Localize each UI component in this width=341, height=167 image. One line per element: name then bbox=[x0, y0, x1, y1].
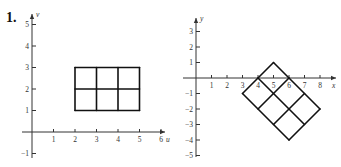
y-tick-label: 1 bbox=[189, 58, 193, 67]
y-tick-label: −5 bbox=[185, 151, 193, 160]
xy-transformed-region bbox=[243, 63, 321, 141]
y-tick-label: −3 bbox=[185, 120, 193, 129]
uv-grid-region bbox=[75, 68, 140, 111]
xy-plane-graph: 12345678−5−4−3−2−1123 x y bbox=[183, 14, 336, 160]
x-tick-label: 6 bbox=[287, 81, 291, 90]
y-tick-label: 5 bbox=[25, 20, 29, 29]
y-tick-label: 4 bbox=[25, 42, 29, 51]
y-tick-label: −2 bbox=[185, 105, 193, 114]
y-tick-label: 3 bbox=[189, 27, 193, 36]
y-tick-label: −1 bbox=[185, 89, 193, 98]
u-axis-label: u bbox=[166, 135, 170, 144]
y-tick-label: 2 bbox=[25, 85, 29, 94]
x-tick-label: 4 bbox=[116, 135, 120, 144]
x-axis-label: x bbox=[331, 81, 336, 90]
x-tick-label: 7 bbox=[303, 81, 307, 90]
v-axis-label: v bbox=[36, 10, 40, 19]
diagram-canvas: 123456−112345 u v 12345678−5−4−3−2−1123 … bbox=[0, 0, 341, 167]
x-tick-label: 6 bbox=[159, 135, 163, 144]
x-tick-label: 1 bbox=[52, 135, 56, 144]
y-tick-label: 2 bbox=[189, 43, 193, 52]
x-tick-label: 2 bbox=[73, 135, 77, 144]
x-tick-label: 8 bbox=[318, 81, 322, 90]
x-tick-label: 5 bbox=[272, 81, 276, 90]
y-tick-label: −4 bbox=[185, 136, 193, 145]
uv-plane-graph: 123456−112345 u v bbox=[21, 10, 170, 158]
x-tick-label: 3 bbox=[95, 135, 99, 144]
x-tick-label: 3 bbox=[241, 81, 245, 90]
xy-ticks: 12345678−5−4−3−2−1123 bbox=[185, 27, 322, 160]
y-axis-label: y bbox=[199, 14, 204, 23]
y-tick-label: 1 bbox=[25, 106, 29, 115]
y-tick-label: 3 bbox=[25, 63, 29, 72]
x-tick-label: 2 bbox=[225, 81, 229, 90]
x-tick-label: 1 bbox=[210, 81, 214, 90]
x-tick-label: 5 bbox=[138, 135, 142, 144]
x-tick-label: 4 bbox=[256, 81, 260, 90]
y-tick-label: −1 bbox=[21, 149, 29, 158]
